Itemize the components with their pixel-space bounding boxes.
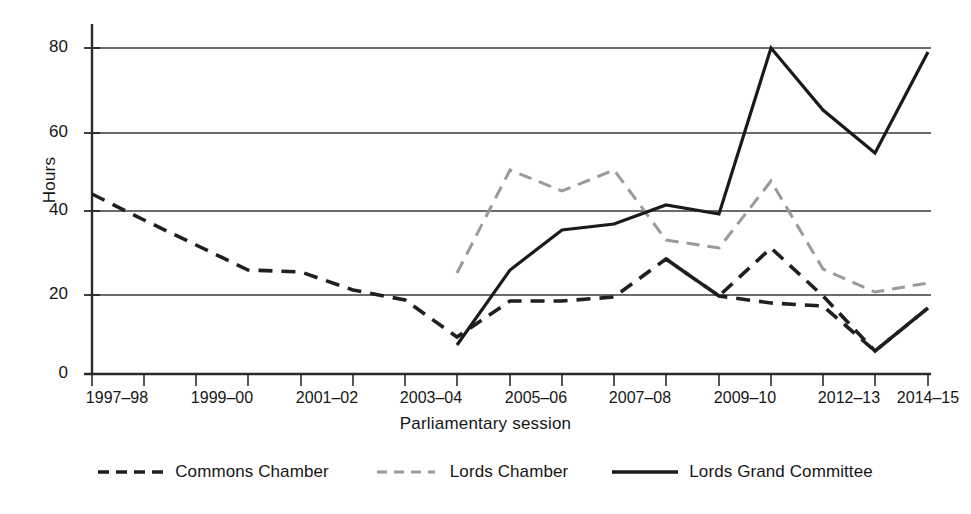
xtick-label-1999-00: 1999–00: [191, 389, 253, 407]
xtick-label-2012-13: 2012–13: [818, 389, 880, 407]
legend-item-commons-chamber[interactable]: Commons Chamber: [98, 462, 329, 482]
series-line-commons-chamber-peak: [666, 248, 928, 351]
x-axis-ticks: [92, 374, 928, 386]
series-line-lords-chamber: [457, 170, 928, 292]
xtick-label-2009-10: 2009–10: [714, 389, 776, 407]
chart-plot-area: [0, 0, 971, 514]
solid-line-icon: [612, 465, 678, 479]
ytick-label-20: 20: [28, 284, 68, 304]
dashed-line-icon: [373, 465, 439, 479]
xtick-label-2003-04: 2003–04: [400, 389, 462, 407]
xtick-label-2014-15: 2014–15: [897, 389, 959, 407]
chart-legend: Commons Chamber Lords Chamber Lords Gran…: [0, 462, 971, 482]
x-axis-title: Parliamentary session: [0, 414, 971, 434]
xtick-label-1997-98: 1997–98: [86, 389, 148, 407]
legend-item-lords-grand-committee[interactable]: Lords Grand Committee: [612, 462, 873, 482]
xtick-label-2007-08: 2007–08: [609, 389, 671, 407]
xtick-label-2005-06: 2005–06: [505, 389, 567, 407]
ytick-label-60: 60: [28, 122, 68, 142]
ytick-label-80: 80: [28, 37, 68, 57]
legend-label-lords-chamber: Lords Chamber: [450, 462, 568, 482]
dashed-line-icon: [98, 465, 164, 479]
legend-label-lords-grand-committee: Lords Grand Committee: [689, 462, 873, 482]
legend-item-lords-chamber[interactable]: Lords Chamber: [373, 462, 568, 482]
legend-label-commons-chamber: Commons Chamber: [175, 462, 329, 482]
chart-container: 80 60 40 20 0 1997–98 1999–00 2001–02 20…: [0, 0, 971, 514]
series-line-lords-grand-committee: [457, 48, 928, 345]
y-axis-title: Hours: [40, 140, 60, 220]
ytick-label-0: 0: [28, 363, 68, 383]
xtick-label-2001-02: 2001–02: [296, 389, 358, 407]
